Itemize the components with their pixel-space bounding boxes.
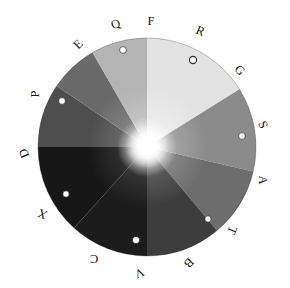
perimeter-label-b: B bbox=[181, 255, 197, 271]
perimeter-label-e: E bbox=[71, 36, 87, 52]
perimeter-label-q: Q bbox=[109, 16, 123, 32]
perimeter-label-t: T bbox=[224, 224, 240, 237]
perimeter-label-f: F bbox=[148, 14, 155, 28]
perimeter-label-c: C bbox=[90, 252, 98, 266]
marker-s-dot bbox=[239, 133, 246, 140]
marker-x-dot bbox=[63, 191, 69, 197]
perimeter-label-a: A bbox=[256, 175, 270, 184]
center-highlight bbox=[117, 117, 177, 177]
marker-p-dot bbox=[59, 98, 66, 105]
perimeter-label-x: X bbox=[36, 206, 50, 222]
figure-canvas: FRGSATBVCXDPEQ bbox=[0, 0, 290, 288]
perimeter-label-s: S bbox=[255, 119, 271, 131]
marker-v-dot bbox=[132, 236, 139, 243]
perimeter-label-v: V bbox=[133, 265, 147, 281]
marker-q-dot bbox=[120, 47, 127, 54]
perimeter-label-p: P bbox=[28, 90, 42, 97]
marker-t-dot bbox=[205, 216, 211, 222]
perimeter-label-r: R bbox=[194, 23, 208, 39]
sector-wheel-figure: FRGSATBVCXDPEQ bbox=[0, 0, 290, 288]
perimeter-label-d: D bbox=[16, 147, 32, 161]
perimeter-label-g: G bbox=[232, 62, 248, 78]
marker-o-dot bbox=[189, 56, 196, 63]
